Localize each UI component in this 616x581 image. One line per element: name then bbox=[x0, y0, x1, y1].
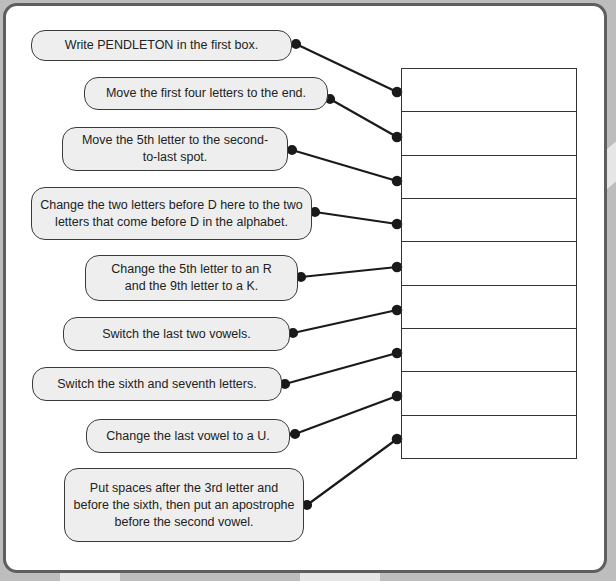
background-shape bbox=[300, 572, 380, 581]
answer-box-5[interactable] bbox=[402, 242, 576, 285]
instruction-6: Switch the last two vowels. bbox=[63, 317, 290, 351]
answer-box-4[interactable] bbox=[402, 199, 576, 242]
answer-box-1[interactable] bbox=[402, 69, 576, 112]
answer-box-2[interactable] bbox=[402, 112, 576, 155]
instruction-7: Switch the sixth and seventh letters. bbox=[32, 367, 282, 401]
instruction-3: Move the 5th letter to the second-to-las… bbox=[62, 127, 288, 171]
answer-box-9[interactable] bbox=[402, 416, 576, 458]
background-shape bbox=[60, 572, 120, 581]
instruction-9: Put spaces after the 3rd letter and befo… bbox=[64, 468, 304, 542]
answer-box-6[interactable] bbox=[402, 286, 576, 329]
instruction-1: Write PENDLETON in the first box. bbox=[31, 30, 292, 61]
answer-box-7[interactable] bbox=[402, 329, 576, 372]
instruction-2: Move the first four letters to the end. bbox=[84, 77, 328, 110]
answer-box-3[interactable] bbox=[402, 156, 576, 199]
instruction-5: Change the 5th letter to an R and the 9t… bbox=[85, 255, 298, 301]
answer-grid bbox=[401, 68, 577, 459]
instruction-8: Change the last vowel to a U. bbox=[86, 419, 290, 453]
answer-box-8[interactable] bbox=[402, 372, 576, 415]
instruction-4: Change the two letters before D here to … bbox=[31, 187, 312, 240]
